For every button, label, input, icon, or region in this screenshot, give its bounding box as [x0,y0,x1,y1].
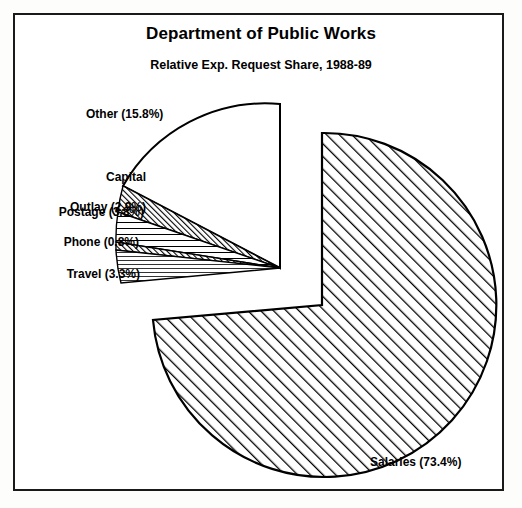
slice-label-postage: Postage (3.8%) [0,205,144,220]
slice-label-travel: Travel (3.3%) [0,267,140,282]
chart-root: Department of Public Works Relative Exp.… [0,0,522,508]
slice-label-other: Other (15.8%) [86,107,163,122]
capital-outlay-line1: Capital [106,170,146,184]
slice-label-phone: Phone (0.8%) [0,235,139,250]
pie-chart-svg [0,0,522,508]
slice-label-salaries: Salaries (73.4%) [370,455,461,470]
